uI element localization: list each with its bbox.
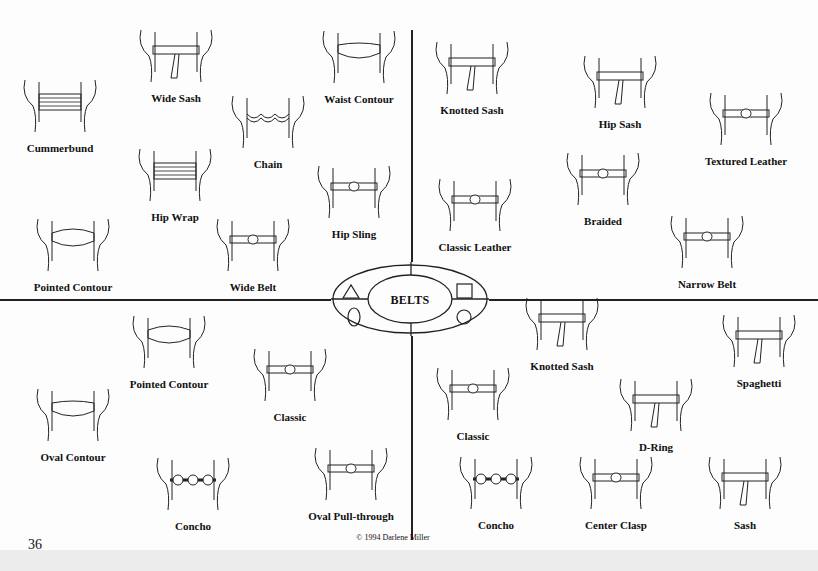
belt-illustration <box>150 450 236 512</box>
belt-illustration <box>577 48 663 110</box>
belt-illustration <box>133 22 219 84</box>
belt-illustration <box>560 145 646 207</box>
belt-illustration <box>132 141 218 203</box>
belt-label: Classic Leather <box>438 241 511 253</box>
belt-illustration <box>573 449 659 511</box>
belt-illustration <box>308 440 394 502</box>
belt-illustration <box>432 171 518 233</box>
belt-label: Sash <box>734 519 756 531</box>
belt-illustration <box>210 211 296 273</box>
belt-label: Hip Sling <box>332 228 376 240</box>
belt-label: Classic <box>274 411 307 423</box>
belt-label: Center Clasp <box>585 519 647 531</box>
page-title: BELTS <box>390 293 429 308</box>
copyright-notice: © 1994 Darlene Miller <box>356 533 429 542</box>
belt-label: Textured Leather <box>705 155 787 167</box>
belt-label: Hip Wrap <box>151 211 199 223</box>
belt-label: Knotted Sash <box>530 360 593 372</box>
belt-label: Concho <box>175 520 211 532</box>
belt-label: Pointed Contour <box>130 378 209 390</box>
belt-label: Wide Belt <box>230 281 277 293</box>
belt-illustration <box>247 341 333 403</box>
belt-label: Hip Sash <box>599 118 642 130</box>
belt-label: Pointed Contour <box>34 281 113 293</box>
belt-illustration <box>126 308 212 370</box>
belt-label: Oval Pull-through <box>308 510 394 522</box>
scan-edge <box>0 550 818 571</box>
belt-illustration <box>702 449 788 511</box>
belt-label: Narrow Belt <box>678 278 736 290</box>
belt-label: Spaghetti <box>737 377 782 389</box>
belt-illustration <box>30 211 116 273</box>
belt-illustration <box>716 307 802 369</box>
belt-illustration <box>429 34 515 96</box>
belt-label: Concho <box>478 519 514 531</box>
belt-label: Cummerbund <box>27 142 94 154</box>
belt-label: Knotted Sash <box>440 104 503 116</box>
belt-label: Classic <box>457 430 490 442</box>
belt-illustration <box>664 208 750 270</box>
belt-label: Braided <box>584 215 622 227</box>
belt-illustration <box>316 23 402 85</box>
belt-illustration <box>17 72 103 134</box>
belt-illustration <box>453 449 539 511</box>
belt-illustration <box>430 360 516 422</box>
belt-label: Wide Sash <box>151 92 201 104</box>
page-number: 36 <box>28 537 42 553</box>
belt-illustration <box>225 88 311 150</box>
belt-illustration <box>703 85 789 147</box>
belt-illustration <box>519 290 605 352</box>
belt-label: Oval Contour <box>40 451 105 463</box>
belt-label: Chain <box>254 158 283 170</box>
belt-label: Waist Contour <box>324 93 393 105</box>
belt-illustration <box>30 381 116 443</box>
belt-illustration <box>613 371 699 433</box>
belt-illustration <box>311 158 397 220</box>
